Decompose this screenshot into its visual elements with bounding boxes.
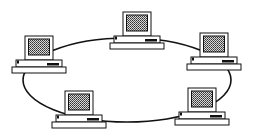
ring-network-diagram xyxy=(0,0,253,136)
computer-top-icon xyxy=(110,12,164,49)
computer-bottom-right-icon xyxy=(175,88,229,125)
computer-right-icon xyxy=(187,33,241,70)
computer-bottom-left-icon xyxy=(52,91,106,128)
computer-left-icon xyxy=(12,36,66,73)
